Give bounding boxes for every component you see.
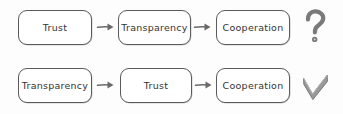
flow-row-2: Transparency Trust Cooperation	[0, 64, 343, 110]
flow-node-cooperation[interactable]: Cooperation	[216, 68, 290, 103]
arrow-right-icon	[96, 75, 118, 95]
flow-node-label: Transparency	[121, 23, 187, 33]
flow-node-transparency[interactable]: Transparency	[18, 68, 92, 103]
arrow-right-icon	[194, 75, 216, 95]
flow-node-label: Cooperation	[223, 81, 284, 91]
flow-row-1: Trust Transparency Cooperation	[0, 6, 343, 52]
flow-node-transparency[interactable]: Transparency	[118, 10, 191, 45]
flow-node-label: Trust	[144, 81, 168, 91]
flow-node-cooperation[interactable]: Cooperation	[216, 10, 290, 45]
diagram-canvas: Trust Transparency Cooperation	[0, 0, 343, 114]
arrow-right-icon	[96, 17, 118, 37]
flow-node-label: Trust	[43, 23, 67, 33]
question-mark-icon	[300, 8, 330, 46]
check-mark-icon	[301, 68, 331, 106]
flow-node-label: Transparency	[22, 81, 88, 91]
arrow-right-icon	[193, 17, 215, 37]
flow-node-trust[interactable]: Trust	[18, 10, 92, 45]
flow-node-trust[interactable]: Trust	[120, 68, 192, 103]
flow-node-label: Cooperation	[223, 23, 284, 33]
